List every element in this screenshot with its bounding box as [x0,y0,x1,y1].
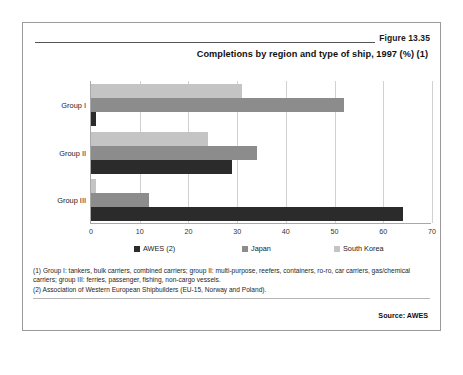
legend-item: South Korea [334,244,384,253]
bar-awes-2-group-ii [91,160,232,174]
bar-japan-group-iii [91,193,149,207]
plot-area: 010203040506070 [90,81,431,224]
figure-number-label: Figure 13.35 [379,33,430,43]
figure-number-row: Figure 13.35 [35,32,430,44]
legend-swatch-icon [242,246,248,252]
category-axis: Group IGroup IIGroup III [46,81,90,224]
x-tick-label: 70 [428,227,436,236]
x-tick-label: 50 [331,227,339,236]
x-tick-label: 40 [282,227,290,236]
legend-swatch-icon [134,246,140,252]
x-tick-label: 30 [233,227,241,236]
x-tick-label: 60 [379,227,387,236]
chart-plot-wrapper: Group IGroup IIGroup III 010203040506070 [46,81,431,233]
bar-awes-2-group-iii [91,207,403,221]
legend-swatch-icon [334,246,340,252]
bar-awes-2-group-i [91,112,96,126]
x-tick-label: 10 [136,227,144,236]
bar-japan-group-ii [91,146,257,160]
category-label: Group III [57,196,86,205]
category-label: Group II [59,148,86,157]
legend-label: Japan [251,244,271,253]
legend-item: Japan [242,244,271,253]
x-tick-label: 20 [184,227,192,236]
bar-south-korea-group-iii [91,179,96,193]
chart-title: Completions by region and type of ship, … [197,49,428,59]
figure-rule-divider [35,42,375,43]
bar-south-korea-group-ii [91,132,208,146]
category-label: Group I [61,100,86,109]
legend-item: AWES (2) [134,244,175,253]
footnote-divider [33,298,430,299]
gridline [432,81,433,223]
x-tick-label: 0 [89,227,93,236]
bar-japan-group-i [91,98,344,112]
gridline [383,81,384,223]
bar-south-korea-group-i [91,84,242,98]
footnote-1: (1) Group I: tankers, bulk carriers, com… [33,266,433,284]
legend-label: South Korea [343,244,384,253]
legend-label: AWES (2) [143,244,175,253]
figure-frame: Figure 13.35 Completions by region and t… [22,22,441,331]
footnotes-block: (1) Group I: tankers, bulk carriers, com… [33,266,433,295]
source-label: Source: AWES [378,311,428,320]
footnote-2: (2) Association of Western European Ship… [33,285,433,294]
chart-legend: AWES (2)JapanSouth Korea [46,244,431,258]
